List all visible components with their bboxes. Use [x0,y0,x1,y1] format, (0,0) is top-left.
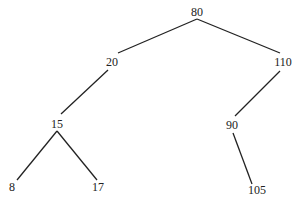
tree-node-80: 80 [191,6,203,18]
tree-node-105: 105 [248,184,266,196]
tree-edges [0,0,305,203]
edge-15-17 [57,131,97,180]
tree-node-110: 110 [274,56,292,68]
edge-110-90 [235,71,280,116]
tree-node-17: 17 [92,181,104,193]
tree-node-20: 20 [106,56,118,68]
edge-90-105 [233,133,252,184]
tree-diagram: 80201101590817105 [0,0,305,203]
edge-80-20 [118,19,197,53]
edge-80-110 [197,19,280,53]
edge-15-8 [17,131,57,180]
tree-node-15: 15 [51,118,63,130]
tree-node-90: 90 [226,119,238,131]
edge-20-15 [61,70,108,114]
tree-node-8: 8 [9,181,15,193]
